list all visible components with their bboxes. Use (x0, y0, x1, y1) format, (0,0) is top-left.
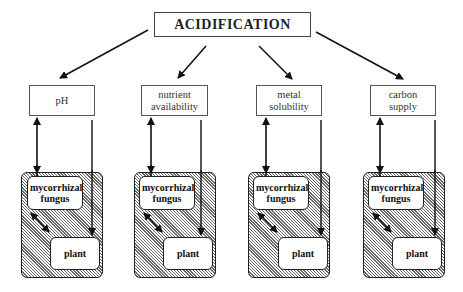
factor-carbon-supply: carbon supply (370, 85, 436, 116)
fungus-label: mycorrhizal fungus (256, 182, 306, 204)
fungus-box: mycorrhizal fungus (139, 176, 195, 210)
plant-label: plant (177, 248, 199, 259)
fungus-box: mycorrhizal fungus (253, 176, 309, 210)
plant-label: plant (292, 248, 314, 259)
fungus-box: mycorrhizal fungus (368, 176, 424, 210)
plant-box: plant (50, 237, 100, 270)
plant-box: plant (278, 237, 328, 270)
plant-label: plant (64, 248, 86, 259)
acidification-label: ACIDIFICATION (174, 17, 291, 33)
factor-label: carbon supply (383, 89, 423, 113)
factor-label: pH (56, 95, 69, 107)
factor-metal-solubility: metal solubility (256, 85, 322, 116)
fungus-label: mycorrhizal fungus (371, 182, 421, 204)
factor-nutrient-availability: nutrient availability (141, 85, 208, 116)
factor-label: nutrient availability (148, 89, 202, 113)
plant-box: plant (163, 237, 213, 270)
plant-box: plant (392, 237, 442, 270)
factor-label: metal solubility (264, 89, 314, 113)
fungus-box: mycorrhizal fungus (27, 176, 83, 210)
plant-label: plant (406, 248, 428, 259)
fungus-label: mycorrhizal fungus (30, 182, 80, 204)
fungus-label: mycorrhizal fungus (142, 182, 192, 204)
acidification-box: ACIDIFICATION (154, 12, 311, 37)
factor-ph: pH (29, 85, 95, 116)
